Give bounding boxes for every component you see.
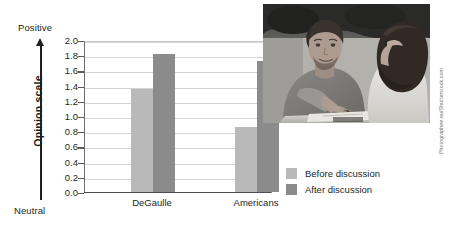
bar-degaulle-before <box>131 89 153 192</box>
legend-swatch <box>286 184 297 195</box>
bar-degaulle-after <box>153 54 175 192</box>
y-tick-label: 1.6 <box>38 65 78 76</box>
gridline <box>85 42 271 43</box>
legend-item: After discussion <box>286 181 380 197</box>
y-tick-mark <box>78 193 84 194</box>
gridline <box>85 57 271 58</box>
y-tick-label: 2.0 <box>38 35 78 46</box>
y-tick-label: 1.4 <box>38 81 78 92</box>
discussion-photo-image <box>263 4 430 123</box>
bar-americans-before <box>235 127 257 192</box>
gridline <box>85 88 271 89</box>
y-tick-label: 1.8 <box>38 50 78 61</box>
y-tick-label: 0.4 <box>38 157 78 168</box>
chart-legend: Before discussionAfter discussion <box>286 165 380 197</box>
gridline <box>85 103 271 104</box>
legend-swatch <box>286 168 297 179</box>
legend-item: Before discussion <box>286 165 380 181</box>
y-tick-label: 0.6 <box>38 141 78 152</box>
y-tick-label: 1.2 <box>38 96 78 107</box>
y-tick-label: 0.0 <box>38 187 78 198</box>
legend-label: After discussion <box>305 184 372 195</box>
gridline <box>85 118 271 119</box>
axis-endpoint-neutral: Neutral <box>14 205 45 216</box>
y-tick-label: 0.8 <box>38 126 78 137</box>
category-label-americans: Americans <box>206 197 306 208</box>
photo-credit: Photographee.eu/Shutterstock.com <box>438 36 444 186</box>
legend-label: Before discussion <box>305 168 380 179</box>
category-label-degaulle: DeGaulle <box>102 197 202 208</box>
y-tick-label: 0.2 <box>38 172 78 183</box>
plot-area <box>84 41 272 193</box>
gridline <box>85 72 271 73</box>
discussion-photo <box>263 4 430 123</box>
axis-endpoint-positive: Positive <box>18 22 52 33</box>
opinion-scale-bar-chart-figure: Positive Neutral Opinion scale 2.01.81.6… <box>0 0 453 228</box>
y-tick-label: 1.0 <box>38 111 78 122</box>
